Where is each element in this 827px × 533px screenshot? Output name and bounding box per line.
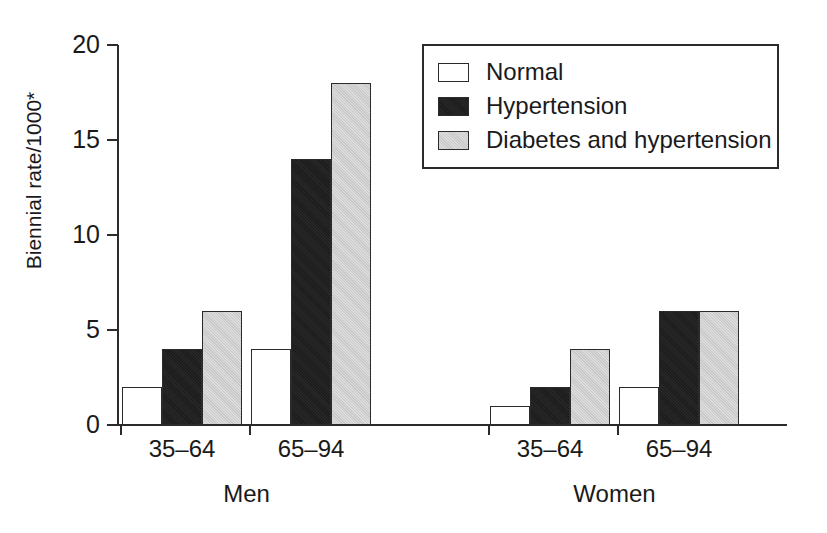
bar-diabetes <box>699 311 739 425</box>
y-axis-tick-label-wrap: 5 <box>0 317 100 343</box>
x-axis-category-label: 35–64 <box>112 437 252 461</box>
bar-hypertension <box>659 311 699 425</box>
legend-item-hypertension: Hypertension <box>438 89 765 123</box>
bar-normal <box>619 387 659 425</box>
y-axis-tick-label-wrap: 10 <box>0 222 100 248</box>
bar-normal <box>490 406 530 425</box>
bar-normal <box>251 349 291 425</box>
x-axis-group-label: Men <box>147 482 347 506</box>
bar-hypertension <box>291 159 331 425</box>
x-axis-category-label: 65–94 <box>241 437 381 461</box>
legend-label-hypertension: Hypertension <box>486 94 627 118</box>
x-axis-tick <box>120 426 122 435</box>
y-axis-tick <box>107 44 118 46</box>
x-axis-category-label: 35–64 <box>480 437 620 461</box>
chart-figure: Biennial rate/1000* 05101520 35–6465–943… <box>0 0 827 533</box>
legend-swatch-normal-icon <box>438 63 469 82</box>
x-axis-tick <box>488 426 490 435</box>
legend-item-diabetes: Diabetes and hypertension <box>438 123 765 157</box>
y-axis-tick-label: 20 <box>0 32 100 57</box>
y-axis-tick-label-wrap: 20 <box>0 32 100 58</box>
x-axis-group-label: Women <box>515 482 715 506</box>
bar-diabetes <box>570 349 610 425</box>
legend-label-diabetes-and-hypertension: Diabetes and hypertension <box>486 128 772 152</box>
x-axis-tick <box>617 426 619 435</box>
legend-swatch-diabetes-icon <box>438 131 469 150</box>
bar-diabetes <box>331 83 371 425</box>
y-axis-tick-label: 10 <box>0 222 100 247</box>
y-axis-title: Biennial rate/1000* <box>23 26 44 336</box>
x-axis-tick <box>249 426 251 435</box>
bar-hypertension <box>530 387 570 425</box>
y-axis-tick <box>107 329 118 331</box>
y-axis-tick <box>107 139 118 141</box>
y-axis-tick-label-wrap: 15 <box>0 127 100 153</box>
bar-normal <box>122 387 162 425</box>
y-axis-tick <box>107 424 118 426</box>
y-axis-tick-label: 0 <box>0 412 100 437</box>
y-axis-tick <box>107 234 118 236</box>
y-axis-tick-label: 5 <box>0 317 100 342</box>
legend-swatch-hypertension-icon <box>438 97 469 116</box>
y-axis-tick-label: 15 <box>0 127 100 152</box>
x-axis-category-label: 65–94 <box>609 437 749 461</box>
chart-legend: Normal Hypertension Diabetes and hyperte… <box>422 44 779 169</box>
bar-diabetes <box>202 311 242 425</box>
bar-hypertension <box>162 349 202 425</box>
y-axis-tick-label-wrap: 0 <box>0 412 100 438</box>
legend-item-normal: Normal <box>438 55 765 89</box>
legend-label-normal: Normal <box>486 60 563 84</box>
